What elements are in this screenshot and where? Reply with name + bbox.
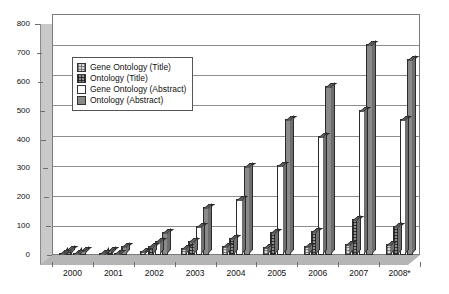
- bar-side-face: [323, 132, 327, 254]
- bar-side-face: [290, 116, 294, 254]
- chart-legend: Gene Ontology (Title)Ontology (Title)Gen…: [72, 57, 193, 111]
- bar-side-face: [357, 216, 361, 254]
- x-axis-tick-label: 2003: [175, 268, 216, 282]
- y-axis-tick-label: 400: [4, 136, 30, 144]
- bar-side-face: [398, 223, 402, 254]
- bar-side-face: [364, 107, 368, 254]
- y-axis-tick-label: 700: [4, 49, 30, 57]
- bar-group: [134, 14, 175, 255]
- y-axis-tick-mark: [47, 255, 52, 256]
- legend-swatch-icon: [77, 85, 86, 94]
- x-axis-tick-mark: [93, 262, 94, 267]
- legend-item-label: Gene Ontology (Title): [90, 63, 171, 72]
- x-axis-tick-mark: [297, 262, 298, 267]
- x-axis-tick-label: 2005: [256, 268, 297, 282]
- bar-side-face: [405, 116, 409, 254]
- x-axis-tick-mark: [379, 262, 380, 267]
- bar-side-face: [201, 223, 205, 254]
- bar-side-face: [412, 55, 416, 254]
- bar-side-face: [242, 196, 246, 254]
- legend-item: Gene Ontology (Abstract): [77, 84, 186, 95]
- bar-2004-series-0: [222, 246, 228, 255]
- bars-layer: [52, 14, 420, 255]
- y-axis-tick-mark: [37, 53, 42, 54]
- bar-side-face: [167, 229, 171, 254]
- bar-side-face: [372, 40, 376, 254]
- bar-2000-series-2: [73, 253, 79, 255]
- y-axis-tick-label: 600: [4, 78, 30, 86]
- bar-chart: 200020012002200320042005200620072008* Ge…: [0, 0, 449, 294]
- bar-2000-series-0: [59, 253, 65, 255]
- bar-group: [216, 14, 257, 255]
- x-axis-tick-label: 2008*: [379, 268, 420, 282]
- legend-swatch-icon: [77, 74, 86, 83]
- legend-item: Ontology (Abstract): [77, 95, 186, 106]
- bar-2001-series-2: [114, 253, 120, 255]
- x-axis-tick-label: 2007: [338, 268, 379, 282]
- x-axis-tick-mark: [216, 262, 217, 267]
- y-axis-tick-label: 200: [4, 193, 30, 201]
- bar-2007-series-0: [345, 244, 351, 255]
- legend-item-label: Ontology (Abstract): [90, 96, 163, 105]
- bar-group: [93, 14, 134, 255]
- x-axis-tick-label: 2001: [93, 268, 134, 282]
- bar-side-face: [208, 203, 212, 254]
- x-axis-tick-label: 2002: [134, 268, 175, 282]
- bar-2005-series-0: [263, 247, 269, 255]
- y-axis-tick-label: 800: [4, 20, 30, 28]
- legend-item: Gene Ontology (Title): [77, 62, 186, 73]
- x-axis-tick-mark: [338, 262, 339, 267]
- bar-2008-series-0: [386, 244, 392, 255]
- chart-floor: [40, 255, 420, 265]
- bar-group: [379, 14, 420, 255]
- y-axis-tick-mark: [40, 111, 45, 112]
- x-axis-tick-mark: [420, 262, 421, 267]
- x-axis-tick-label: 2000: [52, 268, 93, 282]
- x-axis-tick-mark: [134, 262, 135, 267]
- legend-swatch-icon: [77, 96, 86, 105]
- y-axis-tick-label: 300: [4, 164, 30, 172]
- y-axis-tick-mark: [44, 197, 49, 198]
- bar-side-face: [249, 162, 253, 254]
- bar-group: [338, 14, 379, 255]
- bar-2003-series-0: [181, 248, 187, 255]
- y-axis-tick-mark: [35, 24, 40, 25]
- bar-group: [256, 14, 297, 255]
- bar-2006-series-0: [304, 246, 310, 255]
- x-axis-labels: 200020012002200320042005200620072008*: [52, 268, 420, 282]
- x-axis-tick-label: 2006: [297, 268, 338, 282]
- legend-swatch-icon: [77, 63, 86, 72]
- y-axis-tick-mark: [43, 168, 48, 169]
- x-axis-tick-mark: [52, 262, 53, 267]
- bar-group: [52, 14, 93, 255]
- bar-side-face: [331, 83, 335, 254]
- bar-side-face: [85, 247, 89, 254]
- y-axis-tick-mark: [38, 82, 43, 83]
- x-axis-tick-label: 2004: [216, 268, 257, 282]
- legend-item: Ontology (Title): [77, 73, 186, 84]
- legend-item-label: Gene Ontology (Abstract): [90, 85, 186, 94]
- y-axis-tick-mark: [46, 226, 51, 227]
- x-axis-tick-mark: [175, 262, 176, 267]
- y-axis-tick-label: 0: [4, 251, 30, 259]
- y-axis-tick-mark: [41, 140, 46, 141]
- bar-2002-series-0: [140, 251, 146, 255]
- x-axis-tick-mark: [256, 262, 257, 267]
- bar-group: [175, 14, 216, 255]
- y-axis-tick-label: 500: [4, 107, 30, 115]
- bar-side-face: [283, 161, 287, 254]
- bar-side-face: [126, 242, 130, 254]
- bar-2001-series-0: [99, 253, 105, 255]
- y-axis-tick-label: 100: [4, 222, 30, 230]
- bar-group: [297, 14, 338, 255]
- legend-item-label: Ontology (Title): [90, 74, 148, 83]
